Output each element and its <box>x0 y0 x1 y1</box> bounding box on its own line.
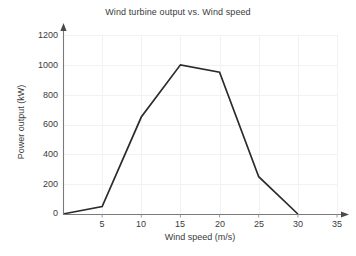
y-tick-label: 0 <box>18 208 58 218</box>
x-tick-label: 15 <box>165 219 195 229</box>
y-axis-arrow-icon <box>60 23 66 31</box>
x-tick-label: 5 <box>87 219 117 229</box>
y-axis-label: Power output (kW) <box>16 52 26 192</box>
y-tick-label: 1200 <box>18 30 58 40</box>
x-axis-arrow-icon <box>341 211 349 217</box>
x-tick-label: 20 <box>205 219 235 229</box>
x-tick-label: 35 <box>322 219 352 229</box>
x-tick-label: 25 <box>244 219 274 229</box>
x-tick-label: 10 <box>126 219 156 229</box>
chart-container: Wind turbine output vs. Wind speed <box>0 0 356 256</box>
x-tick-label: 30 <box>283 219 313 229</box>
x-axis-label: Wind speed (m/s) <box>63 232 337 242</box>
